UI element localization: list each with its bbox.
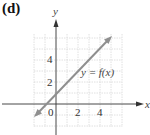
y-tick-2: 2 xyxy=(47,76,53,88)
x-tick-4: 4 xyxy=(97,106,103,118)
y-axis-arrow-icon xyxy=(54,19,59,27)
y-tick-4: 4 xyxy=(47,53,53,65)
x-axis-arrow-icon xyxy=(136,102,144,107)
curve-label: y = f(x) xyxy=(80,66,114,79)
graph: x y 0 2 4 2 4 y = f(x) xyxy=(0,0,150,135)
y-axis-label: y xyxy=(52,5,58,17)
origin-label: 0 xyxy=(48,106,54,118)
x-tick-2: 2 xyxy=(75,106,81,118)
x-axis-label: x xyxy=(144,98,150,110)
